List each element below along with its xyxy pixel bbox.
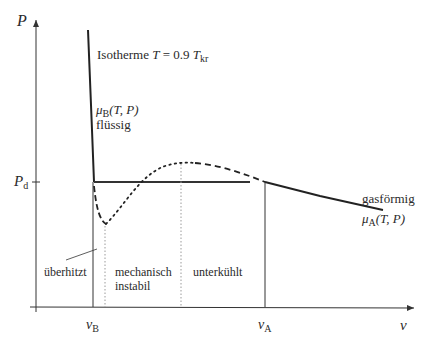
- x-axis-label: v: [400, 318, 407, 332]
- undercooled-dashed-curve: [195, 163, 265, 182]
- liquid-state-label: flüssig: [96, 118, 131, 132]
- undercooled-label: unterkühlt: [193, 265, 242, 279]
- mu-a-label: μA(T, P): [362, 212, 405, 230]
- vb-label: vB: [86, 318, 99, 336]
- gas-state-label: gasförmig: [362, 192, 415, 206]
- unstable-label-2: instabil: [115, 279, 150, 293]
- unstable-label-1: mechanisch: [115, 265, 172, 279]
- overheated-pointer: [66, 249, 97, 260]
- overheated-dashed-curve: [94, 186, 106, 224]
- liquid-curve: [88, 30, 94, 182]
- x-axis: [30, 307, 414, 308]
- va-label: vA: [258, 318, 271, 336]
- unstable-dotted-curve: [106, 163, 195, 224]
- isotherm-diagram: [0, 0, 428, 345]
- isotherm-title: Isotherme T = 0.9 Tkr: [97, 48, 208, 66]
- y-axis-label: P: [17, 14, 27, 28]
- pd-label: Pd: [14, 174, 28, 193]
- overheated-label: überhitzt: [44, 265, 87, 279]
